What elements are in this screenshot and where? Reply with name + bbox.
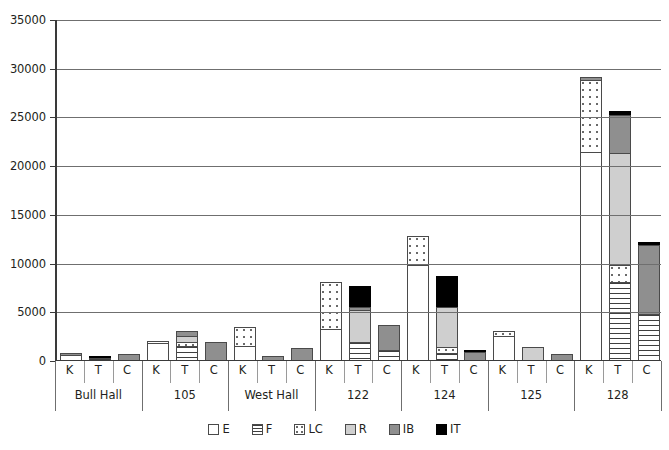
bar-105-t[interactable]	[176, 331, 198, 360]
legend-swatch-r	[345, 424, 356, 435]
y-tick-mark	[50, 69, 55, 70]
bar-segment-lc	[580, 80, 602, 151]
y-tick-mark	[50, 215, 55, 216]
bar-125-k[interactable]	[493, 331, 515, 360]
axis-tick-separator	[344, 361, 345, 383]
y-tick-label: 0	[0, 354, 46, 368]
bar-segment-ib	[378, 325, 400, 350]
axis-group-separator	[228, 361, 229, 411]
axis-group-separator	[142, 361, 143, 411]
bar-segment-e	[234, 346, 256, 360]
bar-segment-lc	[234, 327, 256, 346]
chart-legend: EFLCRIBIT	[0, 422, 669, 436]
bar-segment-f	[638, 314, 660, 360]
bar-segment-lc	[320, 282, 342, 329]
bar-segment-r	[176, 336, 198, 343]
axis-tick-separator	[430, 361, 431, 383]
bar-segment-ib	[464, 352, 486, 360]
y-tick-label: 15000	[0, 208, 46, 222]
bar-122-c[interactable]	[378, 325, 400, 360]
x-tick-label-c: C	[372, 363, 401, 377]
bar-bull-hall-t[interactable]	[89, 356, 111, 360]
x-tick-label-c: C	[546, 363, 575, 377]
bar-west-hall-t[interactable]	[262, 356, 284, 360]
axis-group-separator	[488, 361, 489, 411]
x-axis: KTCBull HallKTC105KTCWest HallKTC122KTC1…	[55, 361, 661, 417]
bar-segment-lc	[436, 347, 458, 353]
legend-item-e[interactable]: E	[208, 422, 229, 436]
y-tick-label: 5000	[0, 305, 46, 319]
y-tick-mark	[50, 166, 55, 167]
bar-segment-ib	[262, 356, 284, 360]
bar-bull-hall-c[interactable]	[118, 354, 140, 360]
bar-west-hall-k[interactable]	[234, 327, 256, 360]
x-tick-label-k: K	[55, 363, 84, 377]
bar-124-k[interactable]	[407, 236, 429, 360]
plot-area	[55, 20, 661, 361]
bar-segment-it	[436, 276, 458, 307]
x-tick-label-t: T	[603, 363, 632, 377]
legend-item-f[interactable]: F	[252, 422, 273, 436]
x-tick-label-c: C	[286, 363, 315, 377]
bar-124-t[interactable]	[436, 276, 458, 360]
axis-tick-separator	[459, 361, 460, 383]
gridline	[57, 312, 661, 313]
bar-segment-f	[436, 353, 458, 360]
bar-125-c[interactable]	[551, 354, 573, 360]
bar-segment-e	[580, 152, 602, 360]
bar-128-k[interactable]	[580, 77, 602, 360]
bar-segment-lc	[176, 342, 198, 346]
bar-segment-it	[464, 350, 486, 352]
bar-segment-it	[89, 356, 111, 357]
gridline	[57, 166, 661, 167]
bar-segment-r	[609, 153, 631, 265]
x-group-label: 124	[401, 388, 488, 402]
gridline	[57, 69, 661, 70]
bar-122-t[interactable]	[349, 286, 371, 360]
legend-item-ib[interactable]: IB	[389, 422, 414, 436]
legend-swatch-it	[436, 424, 447, 435]
x-tick-label-t: T	[170, 363, 199, 377]
x-group-label: 125	[488, 388, 575, 402]
axis-tick-separator	[517, 361, 518, 383]
x-tick-label-t: T	[84, 363, 113, 377]
legend-label: IT	[450, 422, 460, 436]
axis-tick-separator	[170, 361, 171, 383]
bar-124-c[interactable]	[464, 350, 486, 360]
legend-item-it[interactable]: IT	[436, 422, 460, 436]
x-tick-label-k: K	[401, 363, 430, 377]
y-tick-label: 35000	[0, 13, 46, 27]
bar-segment-f	[349, 342, 371, 360]
bar-segment-it	[609, 111, 631, 116]
bar-west-hall-c[interactable]	[291, 348, 313, 360]
bar-bull-hall-k[interactable]	[60, 353, 82, 360]
y-tick-mark	[50, 20, 55, 21]
bar-segment-ib	[349, 307, 371, 310]
legend-label: LC	[308, 422, 322, 436]
bar-105-c[interactable]	[205, 342, 227, 361]
gridline	[57, 20, 661, 21]
y-tick-mark	[50, 264, 55, 265]
x-group-label: 128	[574, 388, 661, 402]
axis-group-separator	[574, 361, 575, 411]
legend-label: R	[359, 422, 367, 436]
y-tick-label: 25000	[0, 110, 46, 124]
bar-segment-ib	[638, 245, 660, 314]
x-tick-label-k: K	[488, 363, 517, 377]
legend-item-lc[interactable]: LC	[294, 422, 322, 436]
bar-105-k[interactable]	[147, 341, 169, 360]
bar-122-k[interactable]	[320, 282, 342, 360]
bar-125-t[interactable]	[522, 347, 544, 360]
x-tick-label-k: K	[228, 363, 257, 377]
legend-item-r[interactable]: R	[345, 422, 367, 436]
legend-swatch-lc	[294, 424, 305, 435]
x-tick-label-t: T	[344, 363, 373, 377]
axis-group-separator	[315, 361, 316, 411]
x-tick-label-c: C	[632, 363, 661, 377]
bar-segment-ib	[609, 115, 631, 152]
bar-128-t[interactable]	[609, 111, 631, 360]
axis-tick-separator	[372, 361, 373, 383]
bar-128-c[interactable]	[638, 242, 660, 360]
gridline	[57, 117, 661, 118]
gridline	[57, 215, 661, 216]
